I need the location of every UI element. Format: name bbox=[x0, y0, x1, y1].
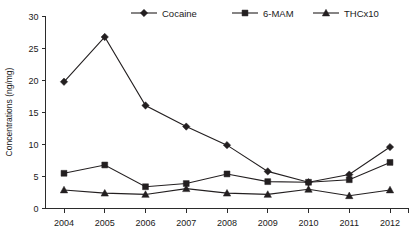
y-axis-ticks: 051015202530 bbox=[28, 12, 45, 214]
x-tick-label: 2005 bbox=[95, 218, 115, 228]
y-tick-label: 25 bbox=[28, 44, 38, 54]
y-tick-label: 20 bbox=[28, 76, 38, 86]
chart-legend: Cocaine6-MAMTHCx10 bbox=[131, 8, 379, 19]
chart-container: Cocaine6-MAMTHCx10 051015202530 20042005… bbox=[0, 0, 418, 238]
x-tick-label: 2006 bbox=[135, 218, 155, 228]
x-tick-label: 2011 bbox=[340, 218, 359, 228]
y-tick-label: 5 bbox=[33, 172, 38, 182]
y-tick-label: 15 bbox=[28, 108, 38, 118]
x-tick-label: 2008 bbox=[217, 218, 237, 228]
x-tick-label: 2010 bbox=[298, 218, 318, 228]
line-chart: Cocaine6-MAMTHCx10 051015202530 20042005… bbox=[0, 0, 418, 238]
legend-item-cocaine[interactable]: Cocaine bbox=[131, 8, 197, 19]
legend-marker-diamond-icon bbox=[140, 9, 147, 16]
legend-item-thcx10[interactable]: THCx10 bbox=[313, 8, 379, 19]
data-point-marker bbox=[60, 186, 67, 193]
series-6-mam bbox=[61, 159, 393, 189]
y-tick-label: 30 bbox=[28, 12, 38, 22]
x-tick-label: 2007 bbox=[176, 218, 196, 228]
chart-axes bbox=[46, 17, 409, 209]
data-point-marker bbox=[223, 141, 230, 148]
data-point-marker bbox=[265, 179, 271, 185]
legend-label: Cocaine bbox=[162, 8, 197, 19]
y-axis-title: Concentrations (ng/mg) bbox=[4, 67, 14, 156]
legend-item-6-mam[interactable]: 6-MAM bbox=[232, 8, 294, 19]
y-tick-label: 0 bbox=[33, 204, 38, 214]
series-line bbox=[64, 37, 390, 182]
y-tick-label: 10 bbox=[28, 140, 38, 150]
series-cocaine bbox=[60, 33, 393, 186]
legend-label: 6-MAM bbox=[263, 8, 294, 19]
data-point-marker bbox=[142, 102, 149, 109]
series-thcx10 bbox=[60, 185, 393, 199]
x-axis-ticks: 200420052006200720082009201020112012 bbox=[54, 209, 409, 228]
data-point-marker bbox=[183, 123, 190, 130]
legend-marker-square-icon bbox=[242, 10, 248, 16]
chart-series bbox=[60, 33, 393, 198]
data-point-marker bbox=[386, 186, 393, 193]
data-point-marker bbox=[387, 159, 393, 165]
x-tick-label: 2012 bbox=[380, 218, 400, 228]
data-point-marker bbox=[224, 171, 230, 177]
x-tick-label: 2004 bbox=[54, 218, 74, 228]
data-point-marker bbox=[305, 186, 312, 193]
data-point-marker bbox=[306, 179, 312, 185]
x-tick-label: 2009 bbox=[258, 218, 278, 228]
legend-label: THCx10 bbox=[344, 8, 379, 19]
data-point-marker bbox=[346, 177, 352, 183]
data-point-marker bbox=[61, 170, 67, 176]
data-point-marker bbox=[264, 168, 271, 175]
data-point-marker bbox=[386, 143, 393, 150]
data-point-marker bbox=[143, 184, 149, 190]
data-point-marker bbox=[102, 162, 108, 168]
